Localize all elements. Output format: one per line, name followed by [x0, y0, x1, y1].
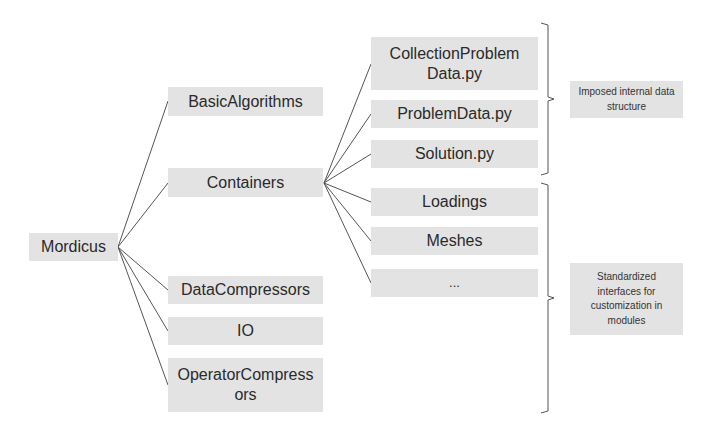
- brace-internal-structure: [541, 23, 554, 175]
- node-label: ...: [449, 275, 460, 291]
- annotation-imposed-internal-structure: Imposed internal data structure: [570, 81, 683, 118]
- node-label: BasicAlgorithms: [188, 92, 303, 112]
- annotation-label: Imposed internal data structure: [576, 85, 677, 114]
- node-label: Mordicus: [41, 237, 106, 257]
- node-ellipsis: ...: [371, 269, 538, 297]
- node-label: ProblemData.py: [397, 104, 512, 124]
- connector-lines: [0, 0, 711, 432]
- brace-standardized-interfaces: [541, 183, 554, 413]
- node-operatorcompressors: OperatorCompressors: [168, 358, 323, 412]
- node-mordicus: Mordicus: [29, 233, 118, 261]
- node-loadings: Loadings: [371, 188, 538, 216]
- node-datacompressors: DataCompressors: [168, 276, 323, 304]
- edge-root-operatorcompressors: [118, 247, 168, 385]
- node-label: OperatorCompressors: [174, 365, 317, 404]
- node-io: IO: [168, 317, 323, 345]
- edge-root-io: [118, 247, 168, 331]
- node-label: Meshes: [426, 231, 482, 251]
- node-collectionproblemdata: CollectionProblem Data.py: [371, 37, 538, 90]
- node-meshes: Meshes: [371, 227, 538, 255]
- node-basicalgorithms: BasicAlgorithms: [168, 87, 323, 116]
- node-containers: Containers: [168, 168, 323, 197]
- edge-root-containers: [118, 183, 168, 247]
- node-label: IO: [237, 321, 254, 341]
- edge-containers-solution: [324, 154, 371, 183]
- node-label: Solution.py: [415, 144, 494, 164]
- annotation-standardized-interfaces: Standardized interfaces for customizatio…: [570, 263, 683, 335]
- node-label: CollectionProblem Data.py: [390, 44, 520, 83]
- node-solution: Solution.py: [371, 140, 538, 168]
- node-label: Loadings: [422, 192, 487, 212]
- node-problemdata: ProblemData.py: [371, 100, 538, 128]
- node-label: DataCompressors: [181, 280, 310, 300]
- node-label: Containers: [207, 173, 284, 193]
- annotation-label: Standardized interfaces for customizatio…: [578, 270, 675, 328]
- edge-root-basicalgorithms: [118, 101, 168, 247]
